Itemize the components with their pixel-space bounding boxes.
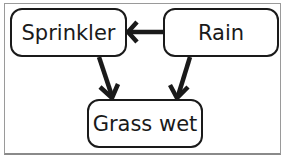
edge-rain-to-sprinkler bbox=[128, 22, 163, 42]
node-grass-wet: Grass wet bbox=[87, 99, 203, 148]
node-sprinkler-label: Sprinkler bbox=[22, 21, 116, 45]
node-rain: Rain bbox=[163, 8, 279, 57]
node-grass-wet-label: Grass wet bbox=[93, 112, 198, 136]
edge-sprinkler-to-grass-wet bbox=[99, 57, 118, 98]
node-rain-label: Rain bbox=[198, 21, 244, 45]
edge-rain-to-grass-wet bbox=[170, 57, 190, 98]
node-sprinkler: Sprinkler bbox=[10, 8, 127, 57]
